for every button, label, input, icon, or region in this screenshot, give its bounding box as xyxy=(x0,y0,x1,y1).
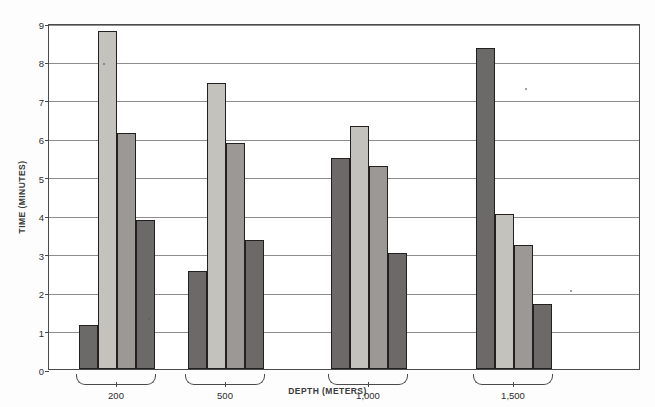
y-tick-mark-0 xyxy=(45,371,49,372)
bracket-shape xyxy=(473,374,553,385)
bar-1500-series-3 xyxy=(514,245,533,369)
bracket-shape xyxy=(76,374,156,385)
scan-artifact-2 xyxy=(148,318,150,320)
bar-1500-series-2 xyxy=(495,214,514,369)
bar-1500-series-1 xyxy=(476,48,495,369)
bar-200-series-1 xyxy=(79,325,98,369)
bar-group-1000 xyxy=(331,25,407,369)
y-tick-label-5: 5 xyxy=(39,173,44,184)
y-tick-label-9: 9 xyxy=(39,20,44,31)
y-tick-mark-2 xyxy=(45,294,49,295)
y-tick-mark-5 xyxy=(45,178,49,179)
y-tick-mark-9 xyxy=(45,25,49,26)
x-axis-title: DEPTH (METERS) xyxy=(0,386,655,396)
bar-500-series-1 xyxy=(188,271,207,369)
y-tick-label-2: 2 xyxy=(39,289,44,300)
bar-500-series-2 xyxy=(207,83,226,369)
y-tick-label-0: 0 xyxy=(39,366,44,377)
bar-200-series-2 xyxy=(98,31,117,369)
bar-group-200 xyxy=(79,25,155,369)
bar-500-series-4 xyxy=(245,240,264,369)
y-tick-mark-3 xyxy=(45,255,49,256)
bar-200-series-3 xyxy=(117,133,136,369)
y-axis-title-container: TIME (MINUTES) xyxy=(0,0,36,407)
y-tick-label-4: 4 xyxy=(39,212,44,223)
bracket-shape xyxy=(185,374,265,385)
y-tick-mark-8 xyxy=(45,63,49,64)
bar-chart: TIME (MINUTES) 0123456789 2005001,0001,5… xyxy=(0,0,655,407)
y-tick-mark-6 xyxy=(45,140,49,141)
bar-1000-series-4 xyxy=(388,253,407,369)
y-axis-title: TIME (MINUTES) xyxy=(17,127,27,267)
scan-artifact-0 xyxy=(103,63,105,65)
bar-1000-series-1 xyxy=(331,158,350,369)
y-tick-label-3: 3 xyxy=(39,250,44,261)
y-tick-mark-1 xyxy=(45,332,49,333)
bar-1000-series-2 xyxy=(350,126,369,369)
y-tick-label-7: 7 xyxy=(39,96,44,107)
y-tick-mark-7 xyxy=(45,101,49,102)
y-tick-label-6: 6 xyxy=(39,135,44,146)
bar-1500-series-4 xyxy=(533,304,552,369)
bar-500-series-3 xyxy=(226,143,245,369)
y-tick-label-8: 8 xyxy=(39,58,44,69)
bar-group-1500 xyxy=(476,25,552,369)
scan-artifact-3 xyxy=(570,290,572,292)
scan-artifact-1 xyxy=(525,88,527,90)
bracket-shape xyxy=(328,374,408,385)
y-tick-mark-4 xyxy=(45,217,49,218)
bar-200-series-4 xyxy=(136,220,155,369)
bar-group-500 xyxy=(188,25,264,369)
y-tick-label-1: 1 xyxy=(39,327,44,338)
bar-1000-series-3 xyxy=(369,166,388,369)
plot-area: 0123456789 xyxy=(48,24,640,370)
